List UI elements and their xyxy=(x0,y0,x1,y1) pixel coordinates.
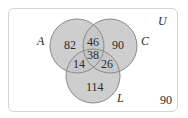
universe-label: U xyxy=(158,14,168,28)
venn-diagram: U A C L 82 90 114 46 38 14 26 90 xyxy=(0,0,188,118)
region-c-only: 90 xyxy=(112,38,124,52)
region-a-c-l: 38 xyxy=(87,48,99,62)
set-label-c: C xyxy=(141,34,150,48)
region-a-c: 46 xyxy=(87,35,99,49)
region-l-only: 114 xyxy=(86,80,104,94)
set-label-l: L xyxy=(116,91,124,105)
region-a-only: 82 xyxy=(64,38,76,52)
region-c-l: 26 xyxy=(101,57,113,71)
region-outside: 90 xyxy=(160,93,172,107)
region-a-l: 14 xyxy=(73,57,85,71)
set-label-a: A xyxy=(36,34,45,48)
